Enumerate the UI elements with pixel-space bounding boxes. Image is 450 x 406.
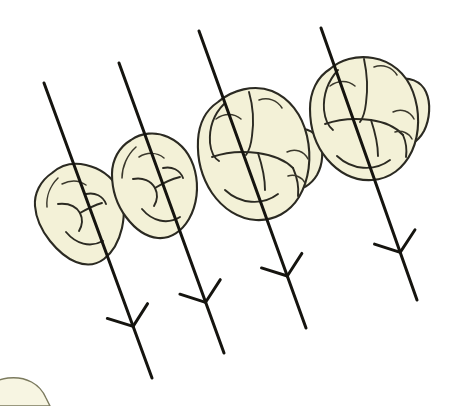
tooth-long-axis-figure bbox=[0, 0, 450, 406]
figure-root bbox=[0, 0, 450, 406]
